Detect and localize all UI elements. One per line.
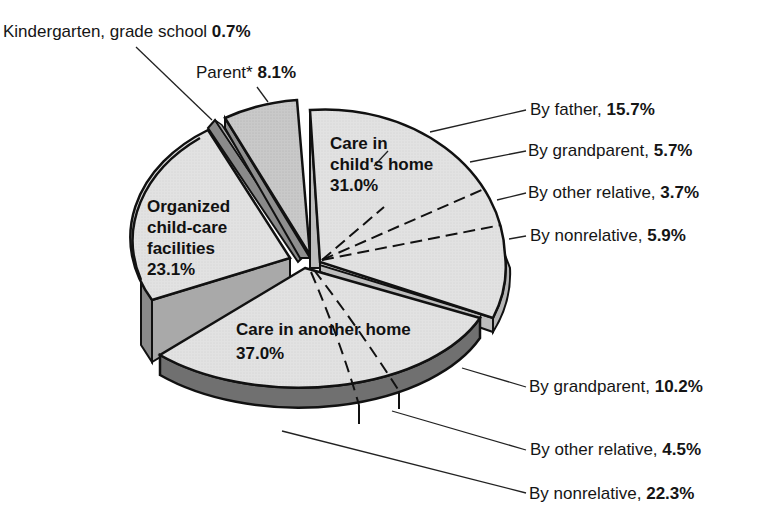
label-value: 22.3% xyxy=(646,484,694,503)
label-text: By other relative, xyxy=(528,183,660,202)
label-value: 5.7% xyxy=(654,141,693,160)
label-value: 15.7% xyxy=(607,100,655,119)
label-text: By grandparent, xyxy=(529,377,655,396)
label-value: 10.2% xyxy=(655,377,703,396)
label-value: 3.7% xyxy=(660,183,699,202)
label-another-other: By other relative, 4.5% xyxy=(530,440,701,460)
label-value: 4.5% xyxy=(662,440,701,459)
label-text: By nonrelative, xyxy=(530,226,647,245)
label-line: 31.0% xyxy=(330,175,433,196)
label-text: Kindergarten, grade school xyxy=(3,22,212,41)
label-text: By other relative, xyxy=(530,440,662,459)
label-text: By nonrelative, xyxy=(529,484,646,503)
label-childs-home-grandparent: By grandparent, 5.7% xyxy=(528,141,692,161)
label-value: 5.9% xyxy=(647,226,686,245)
label-parent: Parent* 8.1% xyxy=(196,63,296,83)
label-line: facilities xyxy=(147,238,230,259)
label-text: Parent* xyxy=(196,63,257,82)
label-childs-home-other: By other relative, 3.7% xyxy=(528,183,699,203)
label-line: Care in xyxy=(330,133,433,154)
label-text: By grandparent, xyxy=(528,141,654,160)
label-value: 8.1% xyxy=(257,63,296,82)
label-line: child's home xyxy=(330,154,433,175)
label-childs-home-nonrelative: By nonrelative, 5.9% xyxy=(530,226,686,246)
label-another-nonrelative: By nonrelative, 22.3% xyxy=(529,484,694,504)
label-line: Organized xyxy=(147,196,230,217)
label-line: Care in another home xyxy=(236,318,411,342)
label-another-home: Care in another home 37.0% xyxy=(236,318,411,366)
label-line: 23.1% xyxy=(147,259,230,280)
label-childs-home-father: By father, 15.7% xyxy=(530,100,655,120)
label-childs-home: Care in child's home 31.0% xyxy=(330,133,433,196)
label-line: child-care xyxy=(147,217,230,238)
label-organized-facilities: Organized child-care facilities 23.1% xyxy=(147,196,230,280)
label-kindergarten: Kindergarten, grade school 0.7% xyxy=(3,22,251,42)
label-text: By father, xyxy=(530,100,607,119)
label-line: 37.0% xyxy=(236,342,411,366)
label-value: 0.7% xyxy=(212,22,251,41)
label-another-grandparent: By grandparent, 10.2% xyxy=(529,377,703,397)
